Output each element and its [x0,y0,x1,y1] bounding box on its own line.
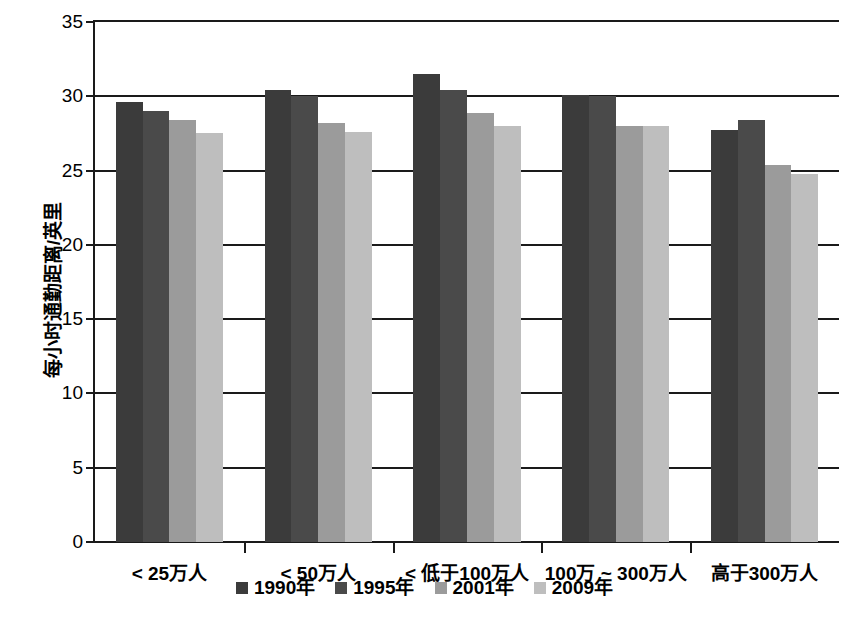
bar-chart: 每小时通勤距离/英里 < 25万人< 50万人< 低于100万人100万 ~ 3… [0,0,849,637]
y-tick-mark [86,170,95,172]
legend-item[interactable]: 1990年 [236,578,315,597]
legend-label: 1990年 [254,578,315,597]
bar-group [690,22,839,542]
bar[interactable] [494,126,521,542]
bar[interactable] [616,126,643,542]
bar[interactable] [589,96,616,542]
bar[interactable] [562,95,589,542]
plot-inner: < 25万人< 50万人< 低于100万人100万 ~ 300万人高于300万人 [95,22,839,542]
legend-label: 1995年 [353,578,414,597]
y-tick-mark [86,392,95,394]
legend-swatch-icon [335,582,347,594]
bar-group [541,22,690,542]
y-tick-mark [86,541,95,543]
y-tick-mark [86,21,95,23]
y-tick-label: 10 [23,383,83,402]
y-tick-mark [86,467,95,469]
x-tick-mark [690,542,692,553]
y-tick-mark [86,95,95,97]
x-tick-mark [393,542,395,553]
bar[interactable] [116,102,143,542]
bar[interactable] [643,126,670,542]
bar-group [244,22,393,542]
chart-legend: 1990年1995年2001年2009年 [0,578,849,597]
bar-group [393,22,542,542]
legend-swatch-icon [534,582,546,594]
legend-swatch-icon [236,582,248,594]
y-tick-label: 30 [23,86,83,105]
legend-label: 2009年 [552,578,613,597]
bar-group [95,22,244,542]
y-tick-label: 5 [23,458,83,477]
bar[interactable] [413,74,440,542]
bar[interactable] [345,132,372,542]
legend-item[interactable]: 2009年 [534,578,613,597]
y-tick-label: 20 [23,235,83,254]
bar[interactable] [196,133,223,542]
bar[interactable] [143,111,170,542]
bar[interactable] [467,113,494,542]
bar[interactable] [711,130,738,542]
x-tick-mark [244,542,246,553]
bar[interactable] [440,90,467,542]
bar[interactable] [791,174,818,542]
bar[interactable] [318,123,345,542]
legend-item[interactable]: 2001年 [435,578,514,597]
x-tick-mark [541,542,543,553]
y-tick-label: 35 [23,12,83,31]
legend-item[interactable]: 1995年 [335,578,414,597]
bar[interactable] [738,120,765,542]
bar[interactable] [291,96,318,542]
bars-layer [95,22,839,542]
bar[interactable] [265,90,292,542]
bar[interactable] [169,120,196,542]
legend-label: 2001年 [453,578,514,597]
y-tick-mark [86,318,95,320]
y-tick-label: 15 [23,309,83,328]
y-tick-label: 25 [23,161,83,180]
plot-area: < 25万人< 50万人< 低于100万人100万 ~ 300万人高于300万人… [93,20,839,542]
bar[interactable] [765,165,792,542]
y-tick-label: 0 [23,532,83,551]
y-tick-mark [86,244,95,246]
legend-swatch-icon [435,582,447,594]
